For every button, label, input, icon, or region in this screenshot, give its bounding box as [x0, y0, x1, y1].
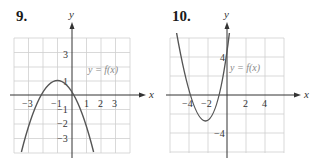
x-axis-label: x: [303, 88, 309, 100]
svg-text:−4: −4: [214, 128, 225, 139]
x-arrow-icon: [139, 93, 146, 98]
svg-text:−4: −4: [182, 98, 193, 109]
svg-text:4: 4: [262, 98, 267, 109]
graph-9: x y −3−1 123 31 −1−2−3 y = f(x): [10, 8, 154, 158]
x-axis-label: x: [148, 88, 154, 100]
graph-9-x-ticks: −3−1 123: [22, 98, 117, 109]
graph-9-function-label: y = f(x): [87, 64, 119, 76]
svg-text:−1: −1: [57, 104, 68, 115]
svg-text:3: 3: [112, 98, 117, 109]
svg-text:4: 4: [220, 52, 225, 63]
graph-10: x y −4−2 24 4−4 y = f(x): [166, 8, 309, 158]
svg-text:−2: −2: [201, 98, 212, 109]
svg-text:−3: −3: [22, 98, 33, 109]
svg-text:3: 3: [63, 49, 68, 60]
svg-text:1: 1: [84, 98, 89, 109]
svg-text:−2: −2: [57, 118, 68, 129]
graph-10-axes: [166, 26, 296, 158]
y-axis-label: y: [68, 8, 74, 20]
svg-text:2: 2: [243, 98, 248, 109]
graph-9-y-ticks: 31 −1−2−3: [57, 49, 68, 144]
y-arrow-icon: [225, 22, 230, 29]
y-arrow-icon: [70, 22, 75, 29]
x-arrow-icon: [294, 93, 301, 98]
svg-text:2: 2: [98, 98, 103, 109]
graphs-canvas: x y −3−1 123 31 −1−2−3 y = f(x) x y: [0, 0, 318, 160]
y-axis-label: y: [223, 8, 229, 20]
graph-10-function-label: y = f(x): [229, 62, 261, 74]
svg-text:−3: −3: [57, 133, 68, 144]
